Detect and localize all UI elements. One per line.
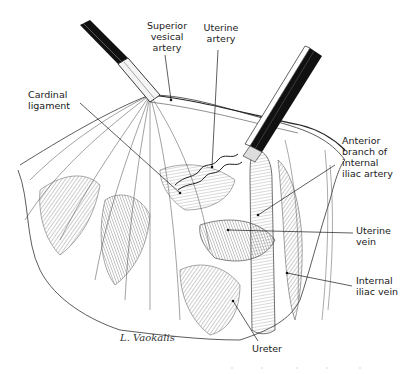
tissue-shading-left	[40, 176, 100, 255]
ureter-region	[180, 265, 240, 335]
cardinal-ligament-region	[160, 165, 235, 210]
illustration-drawing	[0, 0, 415, 374]
label-superior-vesical-artery: Superior vesical artery	[138, 20, 196, 53]
label-cardinal-ligament: Cardinal ligament	[28, 89, 88, 111]
bottom-marks	[232, 367, 360, 369]
anatomical-illustration: Superior vesical artery Uterine artery C…	[0, 0, 415, 374]
leader-superior-vesical-artery	[165, 55, 171, 100]
artist-signature: L. Vaokalis	[120, 332, 175, 343]
label-internal-iliac-vein: Internal iliac vein	[356, 275, 414, 297]
tissue-shading-mid	[101, 195, 150, 285]
label-anterior-branch-internal-iliac-artery: Anterior branch of internal iliac artery	[342, 135, 414, 179]
leader-uterine-artery	[212, 50, 218, 167]
internal-iliac-vein-region	[278, 160, 302, 320]
leader-cardinal-ligament	[80, 103, 180, 193]
label-uterine-artery: Uterine artery	[199, 22, 243, 44]
label-uterine-vein: Uterine vein	[356, 225, 406, 247]
right-laparoscopic-instrument	[243, 46, 322, 162]
label-ureter: Ureter	[252, 343, 292, 354]
internal-iliac-vessel	[250, 150, 275, 334]
